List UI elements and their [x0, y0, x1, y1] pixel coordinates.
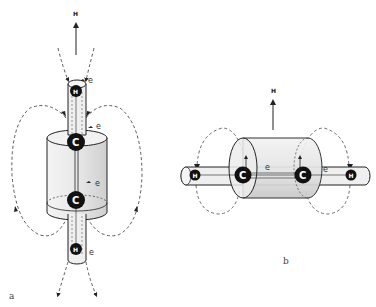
svg-text:H: H	[349, 172, 354, 179]
svg-text:C: C	[72, 195, 79, 206]
svg-text:C: C	[299, 170, 306, 181]
atom-c-top: C	[67, 133, 85, 151]
electron-label: e	[323, 165, 328, 174]
diagram-canvas: H	[0, 0, 376, 307]
magnetic-field-arrow: H	[73, 10, 78, 55]
atom-h-left: H	[190, 170, 201, 181]
panel-a: H	[9, 10, 142, 301]
atom-h-bottom: H	[70, 243, 82, 255]
sigma-bond-tube-bottom	[68, 214, 86, 264]
field-label: H	[271, 87, 276, 94]
panel-label-a: a	[9, 291, 15, 301]
magnetic-field-arrow: H	[271, 87, 276, 130]
field-label: H	[73, 10, 78, 17]
svg-text:H: H	[73, 246, 78, 253]
electron-label: e	[96, 122, 101, 131]
electron-label: e	[88, 76, 93, 85]
atom-c-left: C	[235, 167, 252, 184]
svg-text:C: C	[72, 137, 79, 148]
svg-text:H: H	[193, 172, 198, 179]
atom-c-right: C	[295, 167, 312, 184]
svg-text:H: H	[73, 88, 78, 95]
electron-label: e	[95, 179, 100, 188]
atom-h-right: H	[346, 170, 357, 181]
atom-h-top: H	[70, 85, 82, 97]
panel-label-b: b	[283, 256, 289, 266]
electron-label: e	[265, 163, 270, 172]
atom-c-bottom: C	[67, 191, 85, 209]
svg-text:C: C	[239, 170, 246, 181]
electron-label: e	[89, 248, 94, 257]
panel-b: H H	[181, 87, 370, 266]
